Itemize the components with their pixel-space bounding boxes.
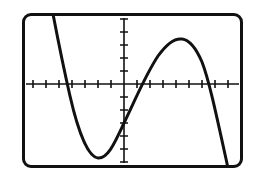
graph-plot — [0, 0, 254, 177]
y-axis — [120, 18, 128, 163]
screenshot-root — [0, 0, 254, 177]
function-curve — [53, 14, 228, 168]
